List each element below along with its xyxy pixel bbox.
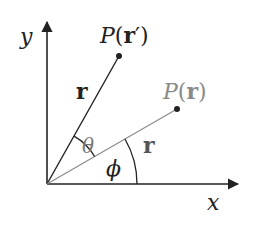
phi-label: ϕ bbox=[106, 156, 121, 181]
p-label-prefix: P bbox=[163, 79, 178, 104]
p-prime-label-vec: r bbox=[123, 22, 135, 48]
p-label-vec: r bbox=[186, 78, 198, 104]
vector-r-label: r bbox=[143, 132, 155, 158]
point-p bbox=[174, 106, 180, 112]
phi-arc bbox=[125, 139, 137, 184]
p-label: P(r) bbox=[163, 78, 207, 104]
p-label-suffix: ) bbox=[198, 79, 207, 104]
p-prime-label-suffix: ′) bbox=[135, 23, 149, 48]
x-axis-label: x bbox=[207, 190, 219, 214]
theta-label: θ bbox=[82, 134, 94, 158]
y-axis-label: y bbox=[20, 24, 32, 49]
p-prime-label: P(r′) bbox=[100, 22, 149, 48]
p-prime-label-prefix: P bbox=[100, 23, 115, 48]
point-p-prime bbox=[116, 53, 122, 59]
vector-r-prime-label: r bbox=[76, 78, 88, 104]
